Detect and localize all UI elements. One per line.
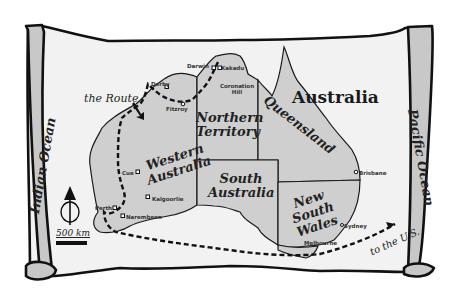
city-label-cue: Cue	[122, 170, 134, 176]
region-label-northern-territory: Northern Territory	[196, 111, 260, 139]
city-label-darwin: Darwin	[187, 63, 209, 69]
city-label-perth: Perth	[95, 205, 112, 211]
city-label-coronation-hill: Coronation Hill	[219, 83, 255, 95]
city-marker-kalgoorlie	[146, 195, 150, 199]
city-marker-brisbane	[354, 170, 358, 174]
city-label-narembeen: Narembeen	[126, 214, 162, 220]
city-label-sydney: Sydney	[344, 223, 367, 229]
city-label-kakadu: Kakadu	[221, 65, 244, 71]
scale-bar	[56, 241, 87, 245]
scale-label: 500 km	[56, 228, 90, 238]
city-label-melbourne: Melbourne	[304, 240, 337, 246]
map-title: Australia	[292, 87, 379, 107]
city-label-derby: Derby	[151, 81, 170, 87]
city-label-fitzroy: Fitzroy	[166, 106, 188, 112]
route-label: the Route	[84, 92, 138, 105]
city-marker-perth	[113, 206, 117, 210]
city-marker-narembeen	[121, 214, 125, 218]
region-label-south-australia: South Australia	[208, 172, 274, 200]
city-marker-cue	[136, 170, 140, 174]
city-marker-darwin	[212, 66, 216, 70]
left-scroll-end	[26, 262, 56, 279]
right-scroll-end	[404, 264, 434, 277]
map-canvas	[0, 0, 463, 293]
city-label-brisbane: Brisbane	[359, 170, 386, 176]
city-label-kalgoorlie: Kalgoorlie	[152, 196, 184, 202]
